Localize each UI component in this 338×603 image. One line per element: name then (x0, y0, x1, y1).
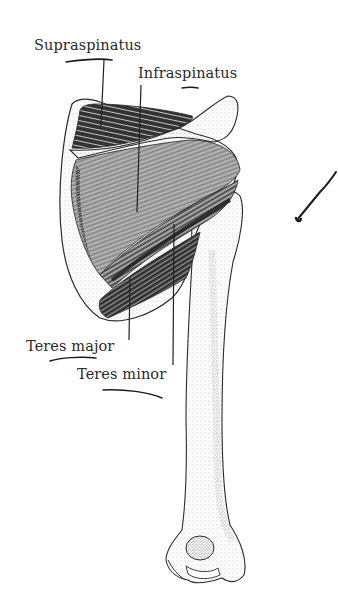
anatomy-figure: Supraspinatus Infraspinatus Teres major … (0, 0, 338, 603)
label-teres-major: Teres major (26, 338, 114, 354)
checkmark-icon (297, 172, 336, 220)
label-teres-minor: Teres minor (77, 366, 166, 382)
label-infraspinatus: Infraspinatus (138, 65, 237, 81)
illustration (0, 0, 338, 603)
label-supraspinatus: Supraspinatus (34, 37, 141, 53)
